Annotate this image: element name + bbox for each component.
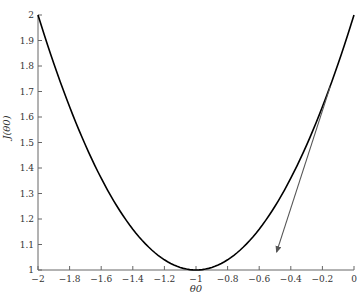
x-axis-ticks: −2−1.8−1.6−1.4−1.2−1−0.8−0.6−0.4−0.20 [31, 266, 357, 284]
y-tick-label: 2 [28, 10, 34, 20]
x-tick-label: −1.8 [59, 274, 81, 284]
y-tick-label: 1.6 [20, 112, 35, 122]
y-tick-label: 1.4 [20, 163, 35, 173]
gradient-arrow [277, 86, 331, 252]
x-tick-label: −2 [31, 274, 44, 284]
x-tick-label: 0 [351, 274, 357, 284]
y-tick-label: 1.1 [20, 240, 34, 250]
cost-function-chart: −2−1.8−1.6−1.4−1.2−1−0.8−0.6−0.4−0.20 11… [0, 0, 360, 299]
cost-curve [38, 15, 354, 270]
y-tick-label: 1.8 [20, 61, 35, 71]
y-tick-label: 1.7 [20, 87, 35, 97]
x-tick-label: −0.2 [311, 274, 333, 284]
x-tick-label: −0.4 [280, 274, 302, 284]
x-tick-label: −0.6 [248, 274, 270, 284]
x-tick-label: −1.4 [122, 274, 144, 284]
y-tick-label: 1.9 [20, 36, 35, 46]
y-tick-label: 1 [28, 265, 34, 275]
x-axis-label: θ0 [190, 283, 203, 294]
x-tick-label: −0.8 [217, 274, 239, 284]
y-tick-label: 1.5 [20, 138, 35, 148]
x-tick-label: −1.2 [153, 274, 175, 284]
y-axis-label: J(θ0) [1, 115, 12, 141]
axes [38, 15, 354, 270]
x-tick-label: −1.6 [90, 274, 112, 284]
y-axis-ticks: 11.11.21.31.41.51.61.71.81.92 [20, 10, 42, 275]
y-tick-label: 1.2 [20, 214, 34, 224]
y-tick-label: 1.3 [20, 189, 35, 199]
